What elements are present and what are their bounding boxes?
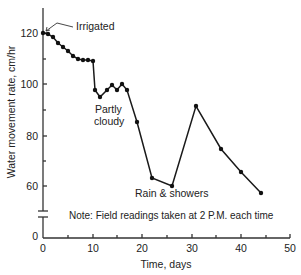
data-line <box>43 33 261 193</box>
x-tick-50: 50 <box>284 242 296 254</box>
x-tick-40: 40 <box>235 242 247 254</box>
y-tick-80: 80 <box>26 130 38 142</box>
annotation-rain: Rain & showers <box>135 187 209 199</box>
x-axis <box>43 234 290 238</box>
y-tick-60: 60 <box>26 180 38 192</box>
annotation-partly: Partly <box>95 103 123 115</box>
y-axis-label: Water movement rate, cm/hr <box>5 45 17 178</box>
y-tick-120: 120 <box>20 27 38 39</box>
annotation-irrigated: Irrigated <box>76 20 115 32</box>
x-axis-label: Time, days <box>141 258 192 270</box>
y-tick-0: 0 <box>32 230 38 242</box>
irrigated-arrow <box>46 23 73 31</box>
y-axis <box>38 8 48 238</box>
chart: 120 100 80 60 0 0 10 20 30 40 50 Time, d… <box>0 0 301 275</box>
annotation-cloudy: cloudy <box>94 115 125 127</box>
data-points <box>41 31 263 195</box>
x-tick-0: 0 <box>40 242 46 254</box>
x-tick-10: 10 <box>87 242 99 254</box>
x-tick-30: 30 <box>186 242 198 254</box>
x-tick-20: 20 <box>136 242 148 254</box>
note-text: Note: Field readings taken at 2 P.M. eac… <box>69 210 274 221</box>
y-tick-100: 100 <box>20 78 38 90</box>
